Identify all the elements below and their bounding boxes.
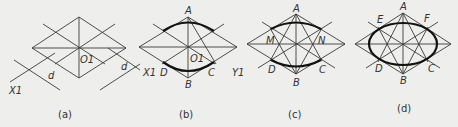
label-o1-a: O1 [80,54,94,65]
label-f-d: F [424,13,430,24]
caption-d: (d) [397,103,411,114]
label-d-b: D [160,67,168,78]
label-b-c: B [293,77,300,88]
label-b-d: B [400,75,407,86]
label-d-a: d [48,70,55,81]
label-x1-b: X1 [142,67,156,78]
label-d-c: D [268,64,276,75]
label-y1-b: Y1 [232,67,244,78]
label-d2-a: d [121,61,128,72]
panel-d: A B C D E F (d) [355,1,451,114]
label-c-b: C [208,67,215,78]
caption-a: (a) [58,109,72,120]
label-x1-a: X1 [8,85,22,96]
panel-c: A B C D M N (c) [247,3,345,120]
label-c-c: C [319,64,326,75]
label-a-d: A [399,1,407,12]
label-m-c: M [266,35,275,46]
label-a-b: A [184,5,192,16]
label-d-d: D [375,63,383,74]
panel-a: O1 X1 d d (a) [8,17,140,120]
caption-b: (b) [179,109,193,120]
ellipse-construction-diagram: O1 X1 d d (a) A B C D O1 X1 Y1 (b) [0,0,458,127]
label-b-b: B [185,79,192,90]
label-a-c: A [292,3,300,14]
caption-c: (c) [288,109,301,120]
label-n-c: N [318,35,326,46]
label-o1-b: O1 [190,53,204,64]
label-c-d: C [428,63,435,74]
panel-b: A B C D O1 X1 Y1 (b) [139,5,244,120]
label-e-d: E [377,14,384,25]
